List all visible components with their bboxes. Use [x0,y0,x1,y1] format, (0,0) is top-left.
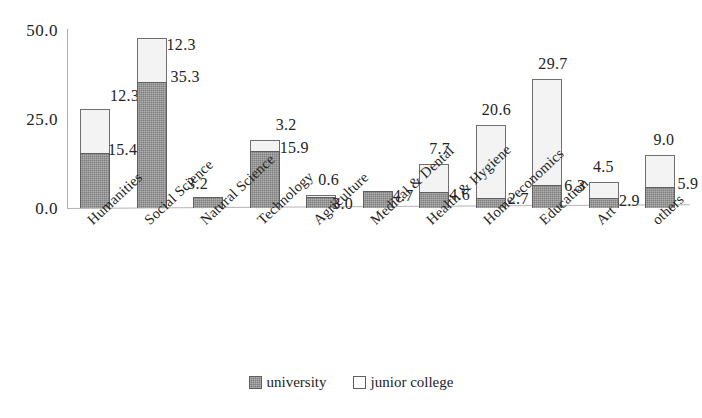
legend-item-university: university [249,374,327,391]
legend-label-university: university [267,374,327,391]
bar-group: 12.315.4 [68,29,124,208]
plot-area: 12.315.412.335.33.23.215.90.63.04.77.74.… [68,29,690,208]
bar-segment-junior-college[interactable] [137,38,167,82]
bar-stack[interactable] [80,109,110,208]
bar-segment-junior-college[interactable] [645,155,675,187]
legend-label-junior-college: junior college [371,374,454,391]
bar-segment-university[interactable] [137,82,167,208]
value-label-junior-college: 0.6 [318,171,339,189]
bar-segment-junior-college[interactable] [80,109,110,153]
value-label-junior-college: 4.5 [593,158,614,176]
y-axis-tick-0: 0.0 [6,199,58,219]
stacked-bar-chart: 50.0 25.0 0.0 12.315.412.335.33.23.215.9… [0,0,702,418]
value-label-university: 5.9 [677,175,698,193]
bar-stack[interactable] [532,79,562,208]
bar-group: 9.05.9 [633,29,689,208]
value-label-junior-college: 20.6 [482,101,511,119]
y-axis-tick-25: 25.0 [6,110,58,130]
chart-legend: university junior college [0,374,702,391]
y-axis-tick-50: 50.0 [6,21,58,41]
value-label-junior-college: 9.0 [653,131,674,149]
bar-segment-junior-college[interactable] [589,182,619,198]
legend-item-junior-college: junior college [353,374,454,391]
legend-swatch-junior-college-icon [353,376,366,389]
value-label-junior-college: 29.7 [538,55,567,73]
bar-segment-junior-college[interactable] [250,140,280,151]
legend-swatch-university-icon [249,376,262,389]
